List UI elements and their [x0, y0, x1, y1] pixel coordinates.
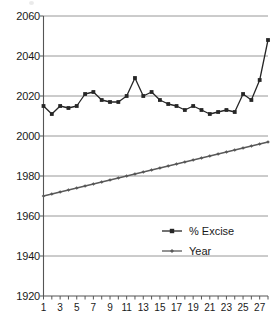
series-excise — [42, 38, 270, 116]
y-gridlines — [44, 16, 269, 256]
chart-container: 19201940196019802000202020402060 1357911… — [0, 0, 273, 331]
chart-legend: % ExciseYear — [162, 225, 234, 257]
series-year — [42, 140, 270, 198]
chart-axes — [44, 16, 269, 296]
line-chart-plot: % ExciseYear — [0, 0, 273, 331]
legend-label: Year — [189, 245, 212, 257]
legend-label: % Excise — [189, 225, 234, 237]
